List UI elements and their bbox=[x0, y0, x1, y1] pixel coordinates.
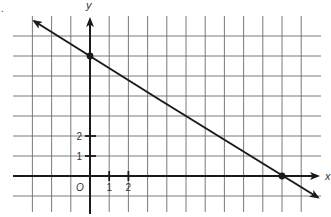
y-intercept-point bbox=[87, 53, 94, 60]
corner-mark: . bbox=[1, 3, 4, 14]
x-tick-label-1: 1 bbox=[106, 182, 112, 193]
plotted-line bbox=[160, 100, 318, 198]
coordinate-plane: . 1 2 1 bbox=[0, 0, 331, 217]
y-axis-label: y bbox=[85, 0, 93, 11]
x-intercept-point bbox=[279, 173, 286, 180]
x-axis-label: x bbox=[324, 170, 331, 182]
x-tick-label-2: 2 bbox=[126, 182, 132, 193]
y-tick-label-2: 2 bbox=[76, 131, 82, 142]
origin-label: O bbox=[76, 182, 84, 193]
plotted-line-upper bbox=[34, 21, 160, 100]
y-tick-label-1: 1 bbox=[76, 151, 82, 162]
